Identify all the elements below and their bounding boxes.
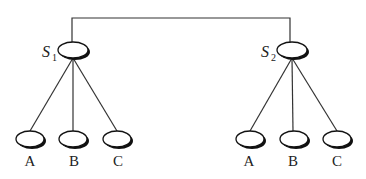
server-connector [72,18,290,42]
left-child-a [16,131,46,149]
right-child-b [280,131,310,149]
server-label-s1: S [42,43,50,60]
left-branches [30,58,117,131]
tree-diagram: S 1 S 2 A B C A B C [0,0,366,179]
right-label-c: C [332,153,342,169]
right-label-a: A [244,153,255,169]
right-label-b: B [288,153,298,169]
left-label-b: B [69,153,79,169]
left-label-c: C [113,153,123,169]
left-child-b [59,131,89,149]
right-child-c [323,131,353,149]
server-label-s2: S [261,43,269,60]
left-child-c [103,131,133,149]
server-node-s1 [58,42,90,60]
server-sub-s1: 1 [52,52,57,63]
server-node-s2 [277,42,309,60]
right-branches [250,58,337,131]
right-child-a [236,131,266,149]
left-label-a: A [25,153,36,169]
server-sub-s2: 2 [271,52,276,63]
